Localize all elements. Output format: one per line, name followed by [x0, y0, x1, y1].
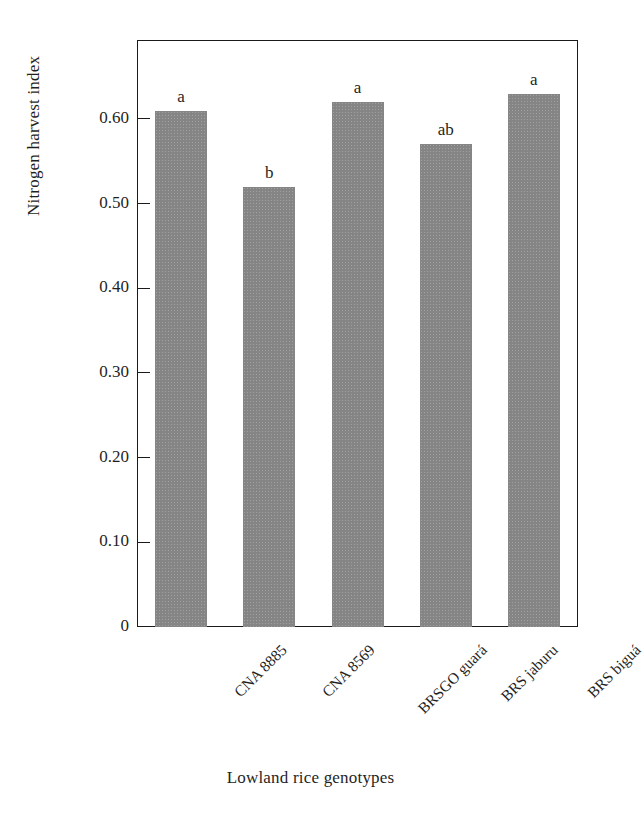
bar [155, 111, 207, 627]
y-axis-tick [137, 372, 150, 373]
y-axis-tick-label: 0.40 [63, 277, 129, 297]
x-axis-category-label: BRS jaburu [497, 641, 561, 705]
y-axis-tick-label: 0 [63, 616, 129, 636]
y-axis-tick-label-text: 0.50 [67, 193, 129, 213]
bar-significance-letter: ab [416, 120, 476, 140]
bar [420, 144, 472, 627]
y-axis-tick-label: 0.30 [63, 362, 129, 382]
bar [243, 187, 295, 627]
bar-significance-letter: a [328, 78, 388, 98]
y-axis-tick-label: 0.20 [63, 447, 129, 467]
bar-significance-letter: a [504, 70, 564, 90]
y-axis-tick-label-text: 0.20 [67, 447, 129, 467]
y-axis-tick-label-text: 0.30 [67, 362, 129, 382]
x-axis-category-label: BRSGO guará [414, 641, 490, 717]
y-axis-tick [137, 118, 150, 119]
y-axis-tick-label: 0.10 [63, 531, 129, 551]
bar-significance-letter: a [151, 87, 211, 107]
x-axis-category-label: CNA 8885 [231, 641, 291, 701]
y-axis-tick-label-text: 0.40 [67, 277, 129, 297]
y-axis-tick-label-text: 0.60 [67, 108, 129, 128]
bar-significance-letter: b [239, 163, 299, 183]
x-axis-category-label: BRS biguá [584, 641, 644, 702]
y-axis-tick-label: 0.60 [63, 108, 129, 128]
y-axis-tick [137, 203, 150, 204]
y-axis-tick [137, 457, 150, 458]
x-axis-title: Lowland rice genotypes [0, 768, 621, 788]
y-axis-title: Nitrogen harvest index [24, 0, 54, 216]
y-axis-tick [137, 542, 150, 543]
bar [508, 94, 560, 627]
y-axis-tick-label-text: 0.10 [67, 531, 129, 551]
y-axis-tick-label-text: 0 [67, 616, 129, 636]
y-axis-tick [137, 288, 150, 289]
x-axis-category-label: CNA 8569 [319, 641, 379, 701]
y-axis-tick-label: 0.50 [63, 193, 129, 213]
bar [332, 102, 384, 627]
